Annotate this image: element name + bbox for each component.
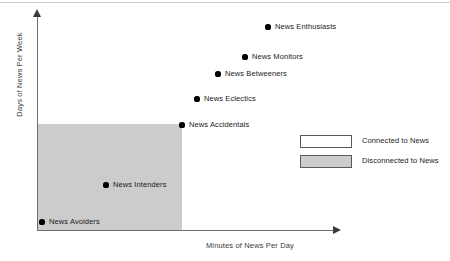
x-axis-arrow-icon xyxy=(333,226,341,234)
point-label: News Enthusiasts xyxy=(275,22,336,31)
y-axis-arrow-icon xyxy=(33,9,41,17)
top-divider xyxy=(0,2,450,3)
point-marker xyxy=(265,24,270,29)
y-axis-line xyxy=(37,16,38,230)
point-marker xyxy=(215,71,220,76)
point-marker xyxy=(194,96,199,101)
y-axis-title: Days of News Per Week xyxy=(15,10,24,140)
scatter-chart: Days of News Per Week Minutes of News Pe… xyxy=(0,0,450,261)
point-label: News Betweeners xyxy=(225,69,287,78)
legend-swatch-disconnected xyxy=(300,155,352,168)
point-label: News Intenders xyxy=(113,180,167,189)
point-marker xyxy=(103,182,108,187)
point-label: News Avoiders xyxy=(49,217,100,226)
point-marker xyxy=(39,219,44,224)
legend-label-disconnected: Disconnected to News xyxy=(362,156,439,165)
legend-swatch-connected xyxy=(300,135,352,148)
point-marker xyxy=(179,122,184,127)
point-label: News Monitors xyxy=(252,52,303,61)
point-label: News Eclectics xyxy=(204,94,256,103)
point-label: News Accidentals xyxy=(189,120,249,129)
x-axis-title: Minutes of News Per Day xyxy=(150,241,350,250)
x-axis-line xyxy=(37,230,335,231)
point-marker xyxy=(242,54,247,59)
zone-disconnected-to-news xyxy=(37,124,182,230)
legend-label-connected: Connected to News xyxy=(362,136,429,145)
